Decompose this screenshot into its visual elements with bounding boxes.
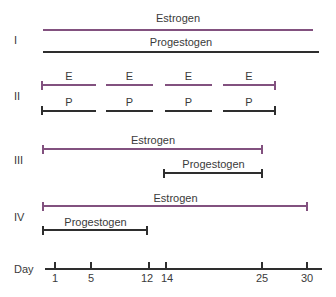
group-ii-p-segment-4 [223,110,275,112]
tick-label-25: 25 [250,272,274,284]
group-ii-e-label-3: E [165,70,212,82]
group-ii-e-segment-3 [165,84,212,86]
group-ii-p-label-2: P [106,96,153,108]
day-axis-line [45,268,322,270]
group-i-estrogen-label: Estrogen [43,12,313,24]
group-iii-progestogen-bar [164,172,263,174]
group-i-progestogen-label: Progestogen [43,36,319,48]
group-iii-estrogen-bar [43,148,263,150]
tick-day-30 [306,262,308,269]
group-iii-estrogen-right-cap [261,145,263,154]
group-ii-e-right-cap [274,81,276,90]
group-ii-p-label-3: P [165,96,212,108]
group-ii-p-right-cap [274,106,276,115]
group-iv-progestogen-bar [43,229,148,231]
group-ii-e-label-4: E [223,70,275,82]
group-iv-estrogen-right-cap [306,202,308,211]
tick-label-14: 14 [155,272,179,284]
group-iii-label: III [14,154,23,166]
group-ii-p-segment-3 [165,110,212,112]
group-ii-e-segment-1 [42,84,96,86]
tick-day-12 [148,262,150,269]
group-ii-e-segment-4 [223,84,275,86]
group-ii-label: II [14,90,20,102]
tick-day-25 [261,262,263,269]
tick-label-5: 5 [79,272,103,284]
group-iii-progestogen-right-cap [261,169,263,178]
day-axis-label: Day [14,263,34,275]
hormone-regimen-diagram: I Estrogen Progestogen II E E E E P P P … [0,0,336,297]
group-i-estrogen-bar [43,29,313,31]
group-iv-progestogen-right-cap [146,226,148,235]
group-iv-label: IV [14,211,24,223]
group-iv-progestogen-label: Progestogen [43,216,148,228]
tick-day-1 [54,262,56,269]
group-ii-p-segment-1 [42,110,96,112]
group-ii-p-label-1: P [42,96,96,108]
tick-label-1: 1 [43,272,67,284]
group-i-label: I [14,34,17,46]
tick-day-5 [90,262,92,269]
group-iv-estrogen-bar [43,205,308,207]
group-ii-e-label-1: E [42,70,96,82]
group-iii-progestogen-label: Progestogen [164,158,263,170]
group-ii-p-segment-2 [106,110,153,112]
group-iii-estrogen-label: Estrogen [43,134,263,146]
group-ii-p-label-4: P [223,96,275,108]
group-iv-estrogen-label: Estrogen [43,192,308,204]
group-ii-e-segment-2 [106,84,153,86]
group-i-progestogen-bar [43,51,319,53]
group-ii-e-label-2: E [106,70,153,82]
tick-label-30: 30 [295,272,319,284]
tick-day-14 [165,262,167,269]
